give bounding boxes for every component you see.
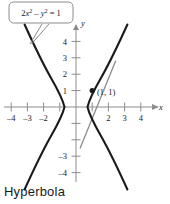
- y-tick-label-1: 1: [63, 86, 67, 96]
- y-tick-label--3: –3: [58, 151, 68, 161]
- x-axis-label: x: [158, 102, 163, 112]
- x-tick-label-3: 3: [122, 113, 126, 123]
- tangent-line: [80, 61, 115, 148]
- hyperbola-figure: –4 –3 –2 2 3 4 4 3 2 1 –3 –4 x y (1, 1): [0, 0, 170, 204]
- y-axis-label: y: [80, 18, 85, 28]
- axes-group: [4, 24, 159, 182]
- x-tick-label-4: 4: [139, 113, 144, 123]
- y-tick-label-3: 3: [63, 53, 67, 63]
- callout-equation: 2x2 – y2 = 1: [21, 8, 61, 18]
- x-tick-label--3: –3: [22, 113, 32, 123]
- eq-right-hand-side: 1: [57, 8, 61, 18]
- x-axis-arrow: [152, 104, 159, 110]
- x-tick-label--4: –4: [6, 113, 16, 123]
- y-tick-label-4: 4: [63, 37, 68, 47]
- y-tick-label-2: 2: [63, 69, 67, 79]
- y-axis-arrow: [73, 24, 79, 30]
- x-tick-labels: –4 –3 –2 2 3 4: [6, 113, 144, 123]
- hyperbola-plot: –4 –3 –2 2 3 4 4 3 2 1 –3 –4 x y (1, 1): [0, 0, 170, 204]
- x-tick-label-2: 2: [106, 113, 110, 123]
- y-tick-label--4: –4: [58, 168, 68, 178]
- x-tick-label--2: –2: [38, 113, 48, 123]
- point-label-1-1: (1, 1): [97, 87, 116, 97]
- eq-minus-sign: –: [32, 8, 41, 18]
- point-marker-1-1: [90, 88, 95, 93]
- figure-caption: Hyperbola: [4, 184, 65, 199]
- eq-equals-sign: =: [48, 8, 57, 18]
